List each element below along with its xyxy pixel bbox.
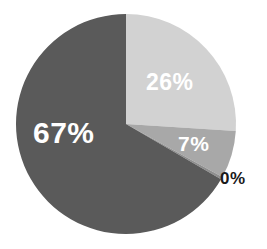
pie-chart: 67% 26% 7% 0% [0, 0, 267, 249]
pie-label-7: 7% [178, 133, 209, 154]
pie-label-67: 67% [33, 118, 95, 148]
pie-label-26: 26% [146, 71, 194, 94]
pie-label-0: 0% [220, 170, 246, 187]
